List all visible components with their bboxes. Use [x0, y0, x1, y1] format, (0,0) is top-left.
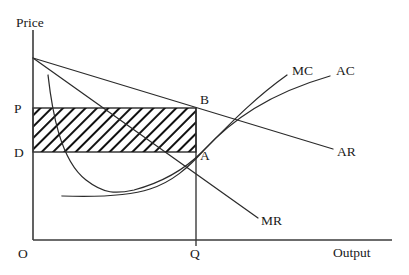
- curve-label-mc: MC: [292, 63, 313, 78]
- point-label-a: A: [200, 148, 210, 163]
- quantity-label-q: Q: [190, 246, 200, 261]
- y-axis-label: Price: [16, 15, 44, 30]
- diagram-root: Price Output O P D Q B A MC AC AR MR: [0, 0, 409, 275]
- x-axis-label: Output: [333, 245, 371, 260]
- point-label-b: B: [200, 92, 209, 107]
- economics-diagram-canvas: Price Output O P D Q B A MC AC AR MR: [0, 0, 409, 275]
- curve-label-mr: MR: [261, 213, 282, 228]
- origin-label: O: [18, 246, 28, 261]
- curve-label-ar: AR: [337, 144, 356, 159]
- price-level-label-p: P: [14, 101, 22, 116]
- price-level-label-d: D: [14, 145, 24, 160]
- curve-label-ac: AC: [336, 63, 355, 78]
